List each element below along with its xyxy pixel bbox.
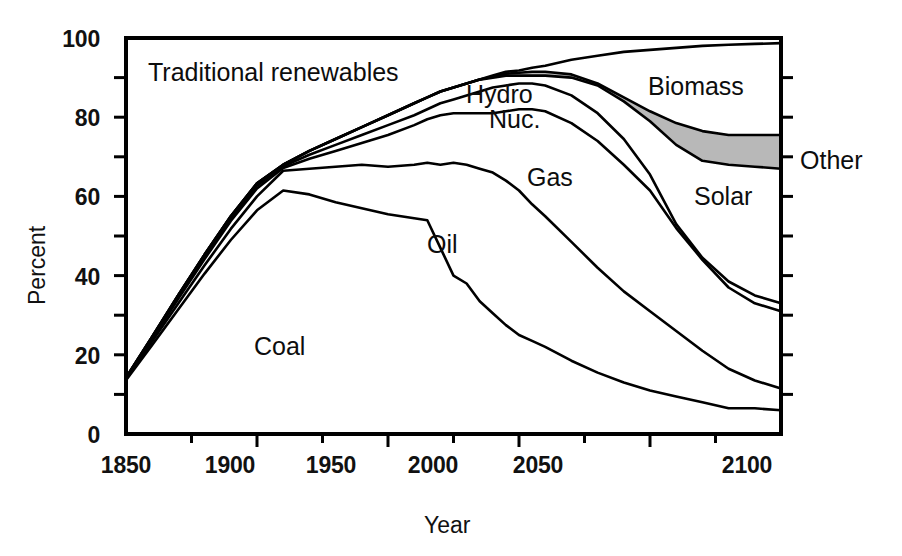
chart-figure: 100 80 60 40 20 0 1850 1900 1950 2000 20…	[0, 0, 902, 556]
x-tick-label-2100: 2100	[713, 452, 781, 479]
series-label-coal: Coal	[254, 332, 305, 361]
series-label-biomass: Biomass	[648, 72, 744, 101]
x-tick-label-1900: 1900	[196, 452, 264, 479]
y-tick-label-60: 60	[18, 184, 100, 211]
x-tick-label-2050: 2050	[504, 452, 572, 479]
x-tick-label-2000: 2000	[399, 452, 467, 479]
series-line-coal	[126, 191, 781, 411]
y-tick-label-100: 100	[18, 26, 100, 53]
y-axis-title: Percent	[24, 226, 51, 305]
series-label-oil: Oil	[427, 230, 458, 259]
series-label-other: Other	[800, 146, 863, 175]
y-tick-label-20: 20	[18, 343, 100, 370]
x-tick-label-1850: 1850	[92, 452, 160, 479]
series-label-nuc: Nuc.	[489, 105, 540, 134]
y-tick-label-80: 80	[18, 105, 100, 132]
series-label-gas: Gas	[527, 163, 573, 192]
series-label-traditional-renewables: Traditional renewables	[148, 58, 399, 87]
series-label-solar: Solar	[694, 182, 752, 211]
y-tick-label-0: 0	[18, 422, 100, 449]
x-tick-label-1950: 1950	[297, 452, 365, 479]
x-axis-title: Year	[424, 512, 470, 539]
